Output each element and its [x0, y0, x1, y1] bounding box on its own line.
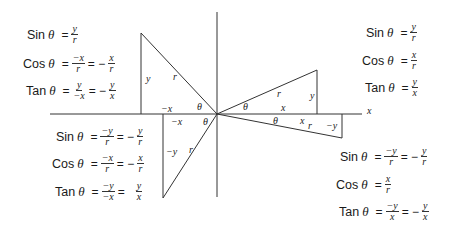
- x-axis-label: x: [367, 106, 371, 116]
- q2-theta-label: θ: [197, 102, 202, 112]
- q3-y-label: −y: [166, 147, 177, 157]
- q1-tan-equation: Tanθ= yx: [365, 77, 418, 98]
- q2-r-label: r: [173, 72, 177, 82]
- q2-sin-equation: Sinθ= yr: [27, 24, 78, 45]
- q2-tan-equation: Tanθ= y−x = − yx: [26, 80, 116, 101]
- trig-quadrant-diagram: x y r −x θ −x θ −y r θ r x y θ x r −y Si…: [0, 0, 450, 233]
- q4-r-label: r: [308, 121, 312, 131]
- q4-sin-equation: Sinθ= −yr = − yr: [340, 146, 427, 167]
- q3-cos-equation: Cosθ= −xr = − xr: [52, 153, 144, 174]
- q3-r-label: r: [189, 145, 193, 155]
- q2-x-label: −x: [161, 104, 172, 114]
- q1-y-label: y: [310, 91, 314, 101]
- q3-theta-label: θ: [203, 117, 208, 127]
- q3-sin-equation: Sinθ= −yr = − yr: [56, 126, 143, 147]
- q1-r-label: r: [277, 89, 281, 99]
- q2-y-label: y: [146, 74, 150, 84]
- q1-sin-equation: Sinθ= yr: [366, 22, 417, 43]
- q4-y-label: −y: [326, 121, 337, 131]
- q4-theta-label: θ: [273, 116, 278, 126]
- q3-x-label: −x: [171, 117, 182, 127]
- q1-cos-equation: Cosθ= xr: [362, 50, 417, 71]
- q3-tan-equation: Tanθ= −y−x = yx: [55, 181, 142, 202]
- q4-cos-equation: Cosθ= xr: [336, 174, 391, 195]
- q1-x-label: x: [281, 103, 285, 113]
- q4-tan-equation: Tanθ= −yx = − yx: [339, 201, 429, 222]
- q2-cos-equation: Cosθ= −xr = − xr: [23, 53, 115, 74]
- q1-theta-label: θ: [243, 102, 248, 112]
- q4-x-label: x: [300, 116, 304, 126]
